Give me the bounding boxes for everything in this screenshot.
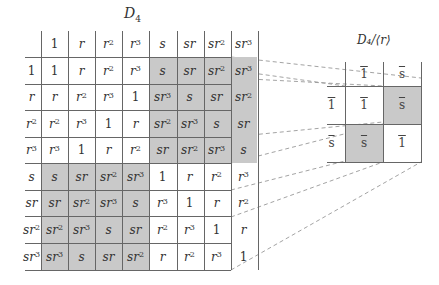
element-exponent: 2 — [193, 144, 198, 153]
element-base: sr — [235, 37, 247, 51]
element-base: 1 — [186, 196, 194, 210]
element-base: sr — [181, 143, 193, 157]
table-cell: r — [203, 190, 230, 216]
table-cell: r3 — [68, 110, 95, 137]
element-exponent: 3 — [136, 38, 141, 47]
element-exponent: 2 — [112, 170, 117, 179]
element-base: s — [28, 170, 34, 184]
table-cell: r2 — [149, 216, 176, 243]
table-cell: sr3 — [41, 243, 68, 270]
element-base: sr — [46, 250, 58, 264]
table-cell: sr2 — [149, 110, 176, 137]
table-cell: sr — [230, 110, 257, 137]
grid-vline — [68, 31, 69, 270]
quotient-grid-hline — [327, 124, 422, 125]
table-cell: sr — [95, 243, 122, 270]
grid-vline — [149, 31, 150, 270]
column-header: s — [149, 31, 176, 57]
table-cell: r2 — [203, 163, 230, 190]
element-base: s — [132, 196, 138, 210]
element-base: sr — [181, 117, 193, 131]
element-base: 1 — [51, 64, 59, 78]
table-cell: 1 — [203, 216, 230, 243]
main-table-title: D4 — [124, 5, 141, 24]
quotient-column-header: s — [383, 62, 421, 86]
table-cell: s — [203, 110, 230, 137]
element-exponent: 2 — [58, 223, 63, 232]
row-header: r2 — [22, 110, 41, 137]
table-cell: sr3 — [176, 110, 203, 137]
element-exponent: 3 — [58, 250, 63, 259]
column-header: sr — [176, 31, 203, 57]
element-base: sr — [127, 170, 139, 184]
grid-vline — [204, 31, 205, 270]
table-cell: sr — [176, 57, 203, 84]
column-header: sr3 — [230, 31, 257, 57]
element-exponent: 2 — [247, 91, 252, 100]
table-cell: s — [68, 243, 95, 270]
table-cell: r3 — [176, 216, 203, 243]
grid-vline — [95, 31, 96, 270]
quotient-table-title: D₄/⟨r⟩ — [357, 33, 391, 47]
coset-label: 1 — [328, 98, 336, 112]
element-base: sr — [154, 90, 166, 104]
table-cell: sr2 — [230, 84, 257, 110]
element-base: s — [159, 64, 165, 78]
quotient-cell: s — [383, 86, 421, 124]
quotient-cell: s — [345, 124, 383, 162]
element-exponent: 3 — [82, 117, 87, 126]
table-cell: r3 — [203, 243, 230, 270]
table-cell: 1 — [122, 84, 149, 110]
element-base: sr — [26, 196, 38, 210]
table-cell: 1 — [230, 243, 257, 270]
element-base: 1 — [105, 117, 113, 131]
element-exponent: 3 — [109, 91, 114, 100]
element-base: r — [52, 90, 58, 104]
element-base: sr — [208, 37, 220, 51]
element-base: r — [160, 250, 166, 264]
table-cell: sr2 — [122, 243, 149, 270]
element-base: s — [159, 37, 165, 51]
element-exponent: 2 — [220, 64, 225, 73]
table-cell: sr3 — [95, 190, 122, 216]
table-cell: sr3 — [230, 57, 257, 84]
table-cell: sr2 — [68, 190, 95, 216]
row-header: s — [22, 163, 41, 190]
element-exponent: 2 — [55, 117, 60, 126]
table-cell: r — [41, 84, 68, 110]
table-cell: r2 — [41, 110, 68, 137]
element-exponent: 2 — [166, 117, 171, 126]
column-header: r2 — [95, 31, 122, 57]
table-cell: sr2 — [203, 57, 230, 84]
table-cell: s — [122, 190, 149, 216]
table-cell: r3 — [149, 190, 176, 216]
table-cell: s — [95, 216, 122, 243]
coset-label: 1 — [360, 98, 368, 112]
table-cell: sr3 — [122, 163, 149, 190]
table-cell: r3 — [230, 163, 257, 190]
grid-vline — [122, 31, 123, 270]
element-base: s — [78, 250, 84, 264]
row-header: sr3 — [22, 243, 41, 270]
element-exponent: 2 — [136, 144, 141, 153]
coset-label: s — [328, 136, 334, 150]
element-exponent: 3 — [190, 223, 195, 232]
element-base: r — [214, 196, 220, 210]
element-base: sr — [73, 223, 85, 237]
quotient-grid-vline — [345, 62, 346, 162]
table-cell: sr — [41, 190, 68, 216]
table-cell: sr2 — [176, 137, 203, 163]
table-cell: r2 — [68, 84, 95, 110]
coset-label: s — [399, 67, 405, 81]
element-base: s — [213, 117, 219, 131]
element-base: sr — [157, 143, 169, 157]
table-cell: r2 — [176, 243, 203, 270]
element-exponent: 2 — [109, 38, 114, 47]
column-header: sr2 — [203, 31, 230, 57]
element-exponent: 2 — [190, 250, 195, 259]
column-header: r3 — [122, 31, 149, 57]
element-exponent: 3 — [244, 170, 249, 179]
element-base: s — [186, 90, 192, 104]
element-exponent: 2 — [217, 170, 222, 179]
element-base: sr — [23, 223, 35, 237]
